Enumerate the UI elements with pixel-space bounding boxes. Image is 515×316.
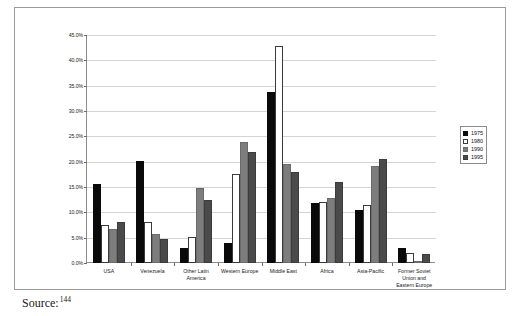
x-axis-category-label: Former Soviet Union and Eastern Europe <box>387 268 441 289</box>
y-axis-tick-label: 10.0% <box>69 209 83 215</box>
bar-group: Former Soviet Union and Eastern Europe <box>392 35 436 263</box>
bar <box>109 229 117 263</box>
bar <box>283 164 291 263</box>
bar <box>152 234 160 263</box>
legend-swatch-icon <box>463 155 468 160</box>
bar-group-bars <box>349 35 393 263</box>
legend-swatch-icon <box>463 131 468 136</box>
x-axis-tick-mark <box>262 263 263 266</box>
bar <box>93 184 101 263</box>
bar-group-bars <box>262 35 306 263</box>
bar <box>422 254 430 263</box>
bar-group: Venezuela <box>131 35 175 263</box>
bar-group: Asia-Pacific <box>349 35 393 263</box>
chart-plot-area: 0.0%5.0%10.0%15.0%20.0%25.0%30.0%35.0%40… <box>86 35 435 263</box>
source-label: Source: <box>22 296 59 310</box>
legend-item: 1995 <box>463 153 483 161</box>
bar <box>248 152 256 263</box>
bar <box>406 253 414 263</box>
bar <box>379 159 387 263</box>
document-page: 0.0%5.0%10.0%15.0%20.0%25.0%30.0%35.0%40… <box>0 0 515 316</box>
y-axis-tick-label: 30.0% <box>69 108 83 114</box>
legend-item-label: 1990 <box>471 146 483 152</box>
bar <box>311 203 319 263</box>
source-footnote-marker: 144 <box>60 295 71 304</box>
legend-item: 1990 <box>463 145 483 153</box>
x-axis-tick-mark <box>174 263 175 266</box>
bar <box>101 225 109 264</box>
chart-legend: 1975198019901995 <box>460 126 487 164</box>
bar <box>414 261 422 263</box>
bar <box>240 142 248 263</box>
bar-group: Middle East <box>262 35 306 263</box>
y-axis-tick-label: 15.0% <box>69 184 83 190</box>
legend-item: 1980 <box>463 137 483 145</box>
legend-swatch-icon <box>463 139 468 144</box>
bar <box>327 198 335 263</box>
bar-group-bars <box>174 35 218 263</box>
bar-group: Western Europe <box>218 35 262 263</box>
y-axis-tick-label: 35.0% <box>69 83 83 89</box>
bar-group-bars <box>305 35 349 263</box>
bar <box>335 182 343 263</box>
y-axis-tick-label: 45.0% <box>69 32 83 38</box>
source-caption: Source:144 <box>22 295 71 311</box>
bar-groups: USAVenezuelaOther Latin AmericaWestern E… <box>87 35 436 263</box>
x-axis-tick-mark <box>131 263 132 266</box>
bar <box>196 188 204 263</box>
bar <box>188 237 196 263</box>
bar <box>267 92 275 263</box>
bar <box>232 174 240 263</box>
legend-item-label: 1995 <box>471 154 483 160</box>
bar-group-bars <box>131 35 175 263</box>
x-axis-tick-mark <box>349 263 350 266</box>
chart-frame: 0.0%5.0%10.0%15.0%20.0%25.0%30.0%35.0%40… <box>14 7 506 290</box>
bar-group-bars <box>87 35 131 263</box>
bar <box>160 239 168 263</box>
bar <box>144 222 152 263</box>
bar <box>291 172 299 263</box>
y-axis-tick-label: 0.0% <box>72 260 83 266</box>
y-axis-tick-label: 40.0% <box>69 57 83 63</box>
bar <box>363 205 371 263</box>
bar <box>275 46 283 263</box>
legend-item-label: 1975 <box>471 130 483 136</box>
legend-swatch-icon <box>463 147 468 152</box>
bar-group-bars <box>218 35 262 263</box>
bar <box>204 200 212 263</box>
bar <box>355 210 363 263</box>
y-axis-tick-label: 5.0% <box>72 235 83 241</box>
legend-item: 1975 <box>463 129 483 137</box>
x-axis-tick-mark <box>218 263 219 266</box>
bar <box>371 166 379 263</box>
bar <box>398 248 406 263</box>
bar <box>136 161 144 263</box>
bar-group: Africa <box>305 35 349 263</box>
y-axis-tick-label: 20.0% <box>69 159 83 165</box>
x-axis-tick-mark <box>305 263 306 266</box>
bar <box>319 202 327 263</box>
y-axis-tick-mark <box>84 263 87 264</box>
legend-item-label: 1980 <box>471 138 483 144</box>
bar <box>180 248 188 263</box>
bar-group-bars <box>392 35 436 263</box>
bar-group: Other Latin America <box>174 35 218 263</box>
x-axis-tick-mark <box>392 263 393 266</box>
bar-group: USA <box>87 35 131 263</box>
bar <box>117 222 125 263</box>
y-axis-tick-label: 25.0% <box>69 133 83 139</box>
bar <box>224 243 232 263</box>
